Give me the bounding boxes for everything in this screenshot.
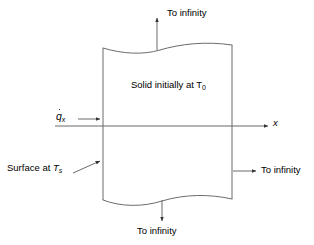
body-bottom-wavy-edge: [103, 195, 232, 205]
body-top-wavy-edge: [103, 43, 232, 53]
label-to-infinity-right: To infinity: [261, 165, 301, 175]
label-heat-flux: qx: [56, 111, 65, 123]
label-to-infinity-bottom: To infinity: [137, 226, 177, 236]
solid-body-outline: [103, 43, 232, 205]
label-x-axis: x: [273, 118, 278, 128]
label-solid-subscript: 0: [202, 84, 206, 91]
label-surface-subscript: s: [59, 167, 63, 174]
label-surface-text: Surface at: [7, 162, 53, 173]
label-surface-temperature: Surface at Ts: [7, 163, 62, 174]
label-to-infinity-top: To infinity: [167, 8, 207, 18]
heat-flux-letter: q: [56, 110, 62, 122]
heat-flux-subscript: x: [62, 116, 66, 123]
dot-accent-icon: [59, 109, 61, 111]
diagram-canvas: [0, 0, 314, 245]
surface-leader-arrow: [73, 161, 100, 173]
semi-infinite-solid-diagram: To infinity To infinity To infinity Soli…: [0, 0, 314, 245]
heat-flux-symbol: q: [56, 111, 62, 123]
label-solid-initial-temperature: Solid initially at T0: [131, 80, 206, 91]
label-solid-text: Solid initially at T: [131, 79, 202, 90]
